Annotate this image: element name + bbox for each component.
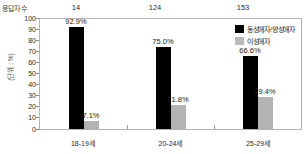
- legend-item: 이성애자: [235, 36, 295, 46]
- y-axis-tick-label: 80: [14, 37, 36, 44]
- plot-area: 92.9%7.1%75.0%21.8%66.6%29.4% 동성애자/양성애자 …: [39, 18, 302, 130]
- y-axis-tick-label: 90: [14, 26, 36, 33]
- y-axis-tick-label: 100: [14, 15, 36, 22]
- bar: [156, 47, 171, 130]
- bar: [171, 105, 186, 129]
- y-axis-tick-label: 70: [14, 48, 36, 55]
- legend: 동성애자/양성애자 이성애자: [235, 24, 295, 48]
- legend-item: 동성애자/양성애자: [235, 24, 295, 34]
- respondent-count-row: 응답자 수 14 124 153: [0, 0, 306, 17]
- legend-swatch-icon: [235, 37, 244, 45]
- legend-item-label: 이성애자: [247, 36, 270, 46]
- y-axis-tick-label: 10: [14, 114, 36, 121]
- x-axis-labels: 18-19세20-24세25-29세: [39, 132, 302, 152]
- bar-value-label: 75.0%: [147, 38, 179, 46]
- legend-swatch-icon: [235, 25, 244, 33]
- bar-value-label: 29.4%: [249, 88, 281, 96]
- legend-item-label: 동성애자/양성애자: [247, 24, 295, 34]
- y-axis-tick-label: 20: [14, 103, 36, 110]
- bar-group: 92.9%7.1%: [40, 19, 127, 129]
- y-axis-tick-label: 50: [14, 70, 36, 77]
- y-axis-tick-label: 40: [14, 81, 36, 88]
- bar-group: 75.0%21.8%: [127, 19, 214, 129]
- respondent-count-label: 응답자 수: [2, 3, 27, 13]
- x-axis-category-label: 20-24세: [127, 138, 215, 148]
- bar: [84, 121, 99, 129]
- x-axis-category-label: 25-29세: [214, 138, 302, 148]
- y-axis-ticks: 1009080706050403020100: [14, 18, 36, 130]
- bar: [258, 97, 273, 129]
- y-axis-tick-label: 0: [14, 126, 36, 133]
- x-axis-category-label: 18-19세: [39, 138, 127, 148]
- chart-screenshot: 응답자 수 14 124 153 (단위 : %) 10090807060504…: [0, 0, 306, 154]
- bar-value-label: 21.8%: [162, 96, 194, 104]
- y-axis-tick-label: 30: [14, 92, 36, 99]
- bar-value-label: 92.9%: [60, 18, 92, 26]
- respondent-count-value: 14: [46, 3, 106, 12]
- respondent-count-value: 124: [125, 3, 185, 12]
- y-axis-tick-label: 60: [14, 59, 36, 66]
- respondent-count-value: 153: [213, 3, 273, 12]
- bar-value-label: 7.1%: [75, 112, 107, 120]
